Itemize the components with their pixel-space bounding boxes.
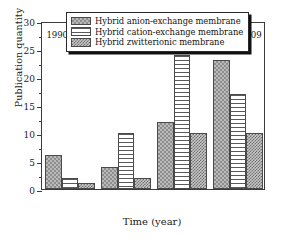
y-tick-label: 20 [24, 74, 35, 84]
y-tick-mark [37, 191, 42, 192]
legend-swatch [71, 17, 91, 26]
y-tick-mark [37, 79, 42, 80]
legend-label: Hybrid zwitterionic membrane [95, 37, 224, 47]
y-minor-tick-mark [39, 37, 42, 38]
legend-label: Hybrid anion-exchange membrane [95, 16, 241, 26]
x-axis-title: Time (year) [38, 216, 266, 227]
bar [62, 178, 79, 189]
legend-item: Hybrid cation-exchange membrane [71, 27, 243, 37]
y-axis-title: Publication quantity [13, 0, 24, 128]
y-minor-tick-mark [39, 149, 42, 150]
y-tick-mark [37, 135, 42, 136]
bar [78, 183, 95, 189]
bar [230, 94, 247, 189]
y-tick-label: 5 [29, 158, 35, 168]
bar [101, 167, 118, 189]
y-tick-mark [37, 107, 42, 108]
y-tick-mark [37, 51, 42, 52]
y-tick-label: 25 [24, 46, 35, 56]
legend-swatch [71, 38, 91, 47]
bar [134, 178, 151, 189]
bar [174, 55, 191, 189]
legend-swatch [71, 27, 91, 36]
y-minor-tick-mark [39, 177, 42, 178]
bar [118, 133, 135, 189]
chart-legend: Hybrid anion-exchange membraneHybrid cat… [66, 12, 249, 52]
y-minor-tick-mark [39, 93, 42, 94]
y-tick-mark [37, 23, 42, 24]
chart-figure: Publication quantity Time (year) 0510152… [0, 0, 290, 242]
y-minor-tick-mark [39, 121, 42, 122]
y-tick-mark [37, 163, 42, 164]
y-tick-label: 10 [24, 130, 35, 140]
legend-label: Hybrid cation-exchange membrane [95, 27, 243, 37]
bar [157, 122, 174, 189]
bar [45, 155, 62, 189]
bar [190, 133, 207, 189]
bar [246, 133, 263, 189]
legend-item: Hybrid zwitterionic membrane [71, 37, 243, 47]
bar [213, 60, 230, 189]
y-tick-label: 30 [24, 18, 35, 28]
legend-item: Hybrid anion-exchange membrane [71, 16, 243, 26]
y-tick-label: 15 [24, 102, 35, 112]
y-minor-tick-mark [39, 65, 42, 66]
y-tick-label: 0 [29, 186, 35, 196]
